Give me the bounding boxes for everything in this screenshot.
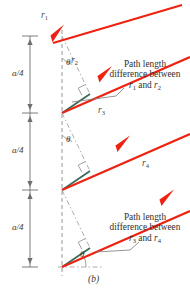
theta-arc-bottom [84,257,86,267]
axis-arrow-2-down [27,116,32,122]
ray-label-r1: r1 [41,11,48,21]
theta-label-top: θ [66,58,70,67]
ray-arrowhead-r3 [116,136,131,153]
ray-label-r3: r3 [98,106,105,116]
axis-arrow-3-up [27,258,32,264]
slit-segment-label-2: a/4 [12,146,24,155]
figure-canvas [0,0,190,294]
right-angle-marker-r3-r4 [78,239,85,250]
slit-measure-axis [22,36,38,267]
ray-line-r3 [62,134,190,190]
ray-line-r1 [53,5,182,43]
annotation-line-2: difference between [110,69,181,79]
annotation-conjunction: and [136,80,154,90]
right-angle-marker-middle [78,162,85,173]
annotation-conjunction: and [136,233,154,243]
ray-label-r4: r4 [142,159,149,169]
slit-segment-label-3: a/4 [12,223,24,232]
slit-segment-label-1: a/4 [12,69,24,78]
annotation-path-difference-r3-r4: Path length difference between r3 and r4 [101,212,189,243]
axis-arrow-3-down [27,193,32,199]
wavefront-line-r3-r4 [62,190,90,248]
diffraction-figure: r1 r2 r3 r4 θ θ θ a/4 a/4 a/4 Path lengt… [0,0,190,294]
ray-arrowhead-r4 [160,190,175,207]
axis-arrow-2-up [27,181,32,187]
right-angle-marker-r1-r2 [78,85,85,96]
annotation-line-2: difference between [110,222,181,232]
axis-arrow-1-up [27,104,32,110]
annotation-line-1: Path length [124,59,166,69]
theta-label-middle: θ [66,135,70,144]
ray-label-r2: r2 [71,56,78,66]
annotation-line-1: Path length [124,212,166,222]
figure-caption: (b) [88,275,99,285]
annotation-path-difference-r1-r2: Path length difference between r1 and r2 [101,59,189,90]
theta-label-bottom: θ [80,250,84,259]
axis-arrow-1-down [27,39,32,45]
